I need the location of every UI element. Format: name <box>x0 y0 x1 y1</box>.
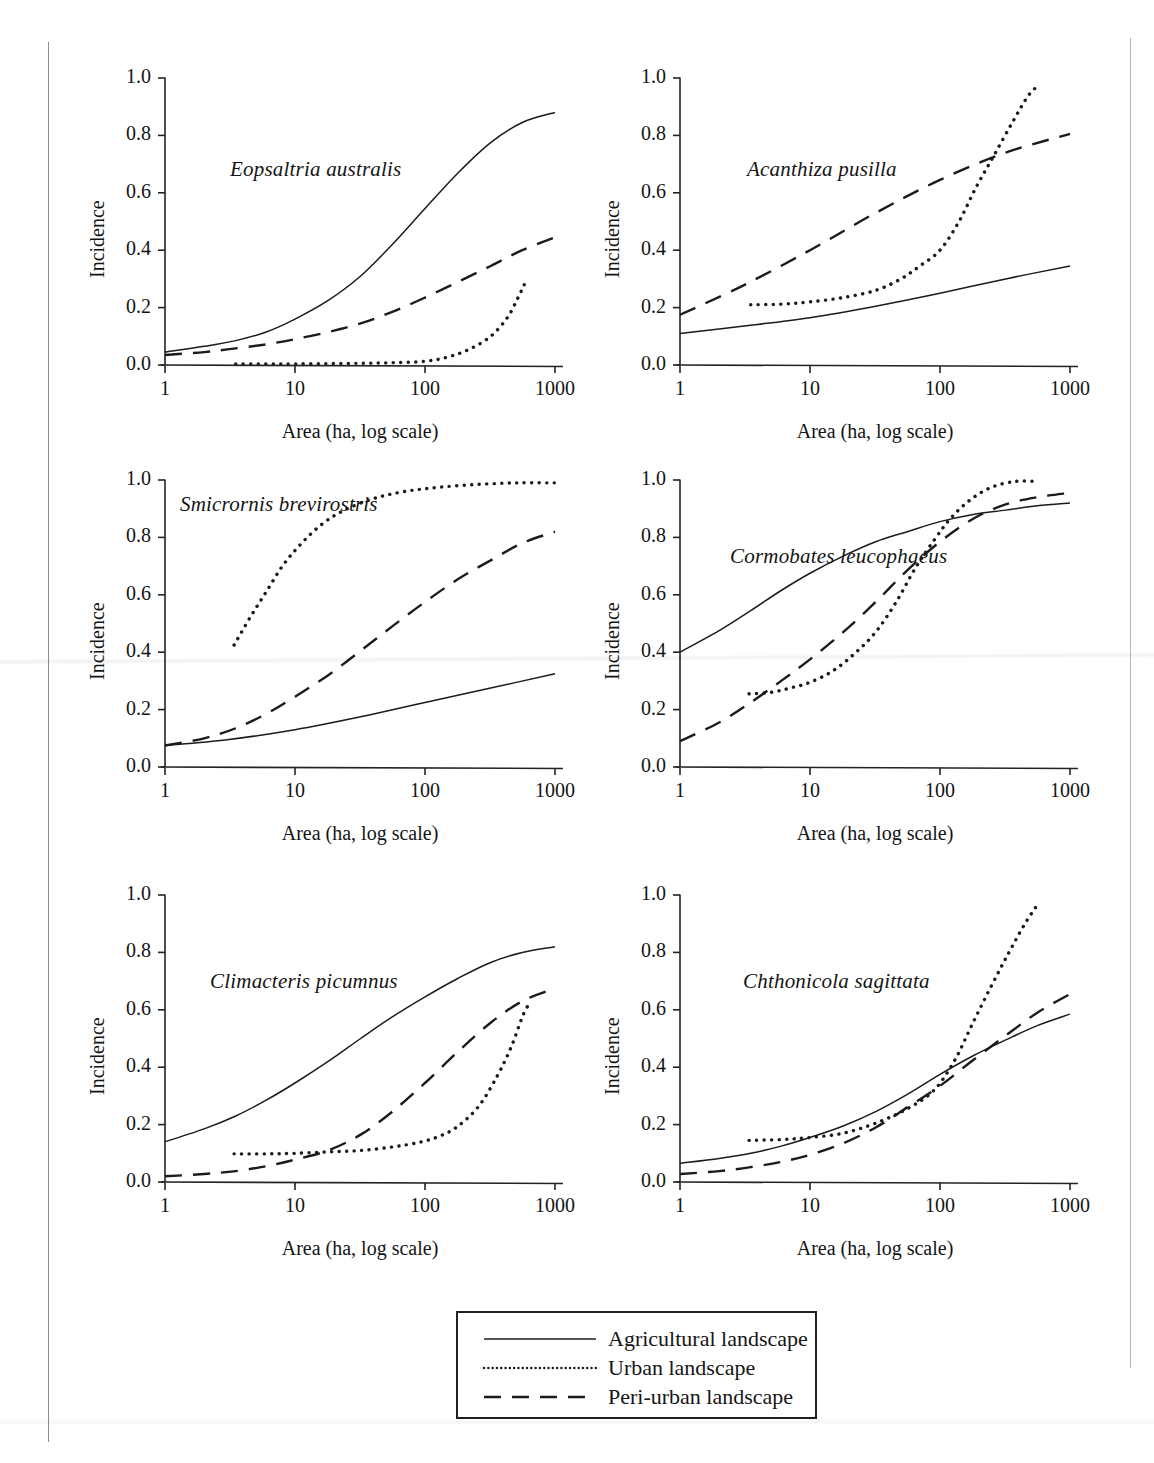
x-tick-label: 1000 <box>1025 1194 1115 1217</box>
y-tick-label: 0.8 <box>79 122 151 145</box>
axes-group <box>673 480 1078 776</box>
y-tick-label: 0.6 <box>79 997 151 1020</box>
y-tick-label: 0.6 <box>79 582 151 605</box>
x-tick-label: 10 <box>250 779 340 802</box>
x-axis-line <box>161 365 563 367</box>
axes-group <box>158 480 563 776</box>
chart-panel-cormobates-leucophaeus: Cormobates leucophaeusIncidenceArea (ha,… <box>565 454 1085 854</box>
series-curve-dashed <box>165 988 555 1176</box>
y-tick-label: 0.8 <box>594 939 666 962</box>
x-tick-label: 10 <box>250 1194 340 1217</box>
x-tick-label: 10 <box>765 779 855 802</box>
x-axis-title: Area (ha, log scale) <box>640 1237 1110 1260</box>
y-tick-label: 0.8 <box>594 524 666 547</box>
x-tick-label: 100 <box>380 377 470 400</box>
y-tick-label: 0.4 <box>79 237 151 260</box>
y-tick-label: 0.2 <box>594 1112 666 1135</box>
y-tick-label: 0.0 <box>79 352 151 375</box>
series-curve-dashed <box>680 994 1070 1174</box>
y-tick-label: 1.0 <box>594 467 666 490</box>
species-name-label: Acanthiza pusilla <box>747 157 897 182</box>
chart-panel-smicrornis-brevirostris: Smicrornis brevirostrisIncidenceArea (ha… <box>50 454 570 854</box>
y-tick-label: 0.6 <box>594 582 666 605</box>
scan-artifact-line-lower <box>0 1418 1154 1426</box>
y-tick-label: 1.0 <box>79 467 151 490</box>
species-name-label: Climacteris picumnus <box>210 969 398 994</box>
y-tick-label: 0.4 <box>594 639 666 662</box>
chart-panel-eopsaltria-australis: Eopsaltria australisIncidenceArea (ha, l… <box>50 52 570 452</box>
x-tick-label: 1 <box>120 377 210 400</box>
y-tick-label: 0.6 <box>79 180 151 203</box>
x-axis-title: Area (ha, log scale) <box>125 1237 595 1260</box>
y-tick-label: 0.4 <box>79 639 151 662</box>
y-tick-label: 1.0 <box>79 65 151 88</box>
legend-label: Peri-urban landscape <box>600 1386 793 1408</box>
x-axis-line <box>676 365 1078 367</box>
axes-group <box>158 895 563 1191</box>
chart-panel-chthonicola-sagittata: Chthonicola sagittataIncidenceArea (ha, … <box>565 869 1085 1269</box>
y-tick-label: 0.0 <box>594 1169 666 1192</box>
x-axis-line <box>676 767 1078 769</box>
y-tick-label: 0.6 <box>594 180 666 203</box>
axes-group <box>158 78 563 374</box>
series-curve-solid <box>165 674 555 746</box>
x-tick-label: 10 <box>250 377 340 400</box>
series-curve-dashed <box>165 532 555 746</box>
x-tick-label: 100 <box>380 1194 470 1217</box>
x-tick-label: 100 <box>895 1194 985 1217</box>
x-axis-title: Area (ha, log scale) <box>125 822 595 845</box>
series-curve-solid <box>680 503 1070 652</box>
x-tick-label: 1 <box>635 377 725 400</box>
y-tick-label: 0.2 <box>594 295 666 318</box>
x-axis-title: Area (ha, log scale) <box>125 420 595 443</box>
dashed-line-swatch <box>482 1388 600 1406</box>
x-tick-label: 1 <box>120 1194 210 1217</box>
x-tick-label: 10 <box>765 377 855 400</box>
y-tick-label: 0.2 <box>79 295 151 318</box>
chart-panel-climacteris-picumnus: Climacteris picumnusIncidenceArea (ha, l… <box>50 869 570 1269</box>
series-curve-dashed <box>165 237 555 355</box>
y-tick-label: 0.8 <box>594 122 666 145</box>
y-tick-label: 0.2 <box>79 1112 151 1135</box>
series-curve-dotted <box>751 85 1040 305</box>
solid-line-swatch <box>482 1330 600 1348</box>
x-tick-label: 100 <box>895 377 985 400</box>
x-tick-label: 100 <box>895 779 985 802</box>
y-tick-label: 0.6 <box>594 997 666 1020</box>
series-curve-solid <box>165 112 555 352</box>
y-tick-label: 0.0 <box>594 352 666 375</box>
y-tick-label: 0.8 <box>79 939 151 962</box>
y-tick-label: 0.0 <box>79 1169 151 1192</box>
chart-panel-acanthiza-pusilla: Acanthiza pusillaIncidenceArea (ha, log … <box>565 52 1085 452</box>
x-tick-label: 100 <box>380 779 470 802</box>
y-tick-label: 0.2 <box>594 697 666 720</box>
x-axis-line <box>676 1182 1078 1184</box>
x-tick-label: 1000 <box>1025 779 1115 802</box>
legend-item-dotted: Urban landscape <box>458 1353 815 1382</box>
dotted-line-swatch <box>482 1359 600 1377</box>
x-tick-label: 1000 <box>1025 377 1115 400</box>
legend-label: Urban landscape <box>600 1357 755 1379</box>
x-tick-label: 10 <box>765 1194 855 1217</box>
series-curve-solid <box>680 266 1070 333</box>
y-tick-label: 0.4 <box>594 1054 666 1077</box>
legend-box: Agricultural landscapeUrban landscapePer… <box>456 1311 817 1419</box>
y-tick-label: 0.2 <box>79 697 151 720</box>
y-tick-label: 1.0 <box>79 882 151 905</box>
legend-label: Agricultural landscape <box>600 1328 808 1350</box>
legend-item-solid: Agricultural landscape <box>458 1324 815 1353</box>
y-tick-label: 1.0 <box>594 882 666 905</box>
x-axis-title: Area (ha, log scale) <box>640 420 1110 443</box>
x-axis-title: Area (ha, log scale) <box>640 822 1110 845</box>
series-curve-dotted <box>236 285 525 364</box>
y-tick-label: 0.8 <box>79 524 151 547</box>
y-tick-label: 0.4 <box>79 1054 151 1077</box>
x-tick-label: 1 <box>635 779 725 802</box>
species-name-label: Smicrornis brevirostris <box>180 492 378 517</box>
x-axis-line <box>161 1182 563 1184</box>
x-tick-label: 1 <box>635 1194 725 1217</box>
figure-panel-grid: Eopsaltria australisIncidenceArea (ha, l… <box>0 0 1154 1290</box>
x-axis-line <box>161 767 563 769</box>
y-tick-label: 0.0 <box>594 754 666 777</box>
axes-group <box>673 78 1078 374</box>
